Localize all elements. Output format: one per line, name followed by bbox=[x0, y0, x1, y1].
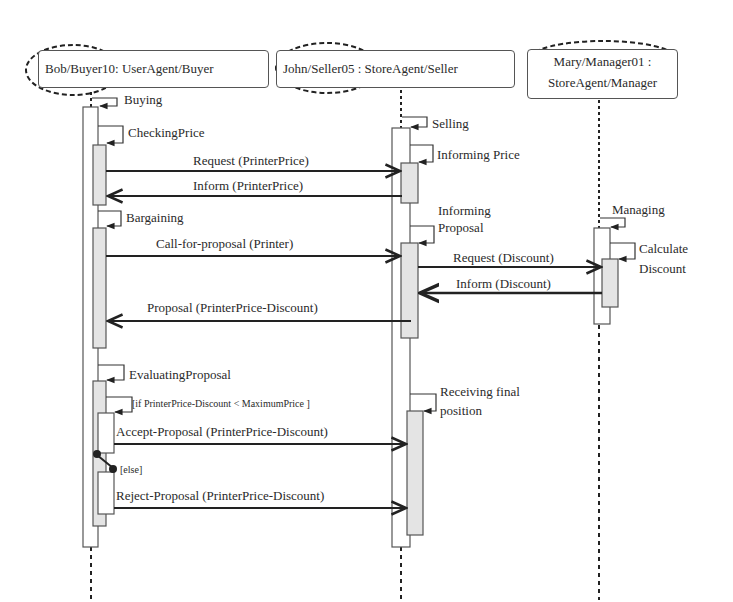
self-call-receiving-final bbox=[410, 394, 436, 411]
self-call-informing-proposal bbox=[410, 226, 434, 243]
self-call-informing-price bbox=[410, 145, 433, 162]
self-call-buying bbox=[92, 98, 117, 106]
label-receiving-final-2: position bbox=[440, 404, 482, 418]
participant-seller: John/Seller05 : StoreAgent/Seller bbox=[276, 50, 515, 88]
msg-label-proposal: Proposal (PrinterPrice-Discount) bbox=[147, 301, 318, 315]
participant-buyer-label: Bob/Buyer10: UserAgent/Buyer bbox=[45, 61, 214, 76]
activation-seller bbox=[392, 128, 423, 547]
msg-label-request-discount: Request (Discount) bbox=[453, 251, 554, 265]
msg-label-request-printerprice: Request (PrinterPrice) bbox=[193, 154, 309, 168]
label-evaluating-proposal: EvaluatingProposal bbox=[129, 368, 231, 382]
participant-seller-label: John/Seller05 : StoreAgent/Seller bbox=[283, 61, 458, 76]
msg-label-accept-proposal: Accept-Proposal (PrinterPrice-Discount) bbox=[116, 425, 328, 439]
label-buying: Buying bbox=[124, 93, 162, 107]
self-call-evaluating-proposal bbox=[98, 365, 124, 380]
self-call-checking-price bbox=[98, 126, 123, 143]
label-receiving-final-1: Receiving final bbox=[440, 385, 520, 399]
label-bargaining: Bargaining bbox=[126, 211, 184, 225]
self-call-if-guard bbox=[106, 397, 132, 412]
msg-label-call-for-proposal: Call-for-proposal (Printer) bbox=[156, 237, 293, 251]
label-if-guard: [if PrinterPrice-Discount < MaximumPrice… bbox=[132, 397, 310, 411]
participant-manager-classifier: StoreAgent/Manager bbox=[528, 75, 677, 90]
activation-buyer bbox=[83, 107, 114, 547]
label-informing-proposal-1: Informing bbox=[438, 204, 491, 218]
self-call-managing bbox=[600, 218, 625, 227]
label-calculate-discount-2: Discount bbox=[639, 262, 686, 276]
participant-buyer: Bob/Buyer10: UserAgent/Buyer bbox=[38, 50, 269, 88]
label-selling: Selling bbox=[432, 117, 469, 131]
label-managing: Managing bbox=[612, 203, 665, 217]
label-checking-price: CheckingPrice bbox=[128, 126, 205, 140]
msg-label-inform-discount: Inform (Discount) bbox=[456, 277, 551, 291]
label-informing-price: Informing Price bbox=[437, 148, 520, 162]
participant-manager: Mary/Manager01 : StoreAgent/Manager bbox=[527, 49, 678, 99]
self-call-calculate-discount bbox=[610, 243, 635, 259]
participant-manager-instance: Mary/Manager01 : bbox=[528, 54, 677, 69]
self-call-bargaining bbox=[98, 211, 121, 226]
label-calculate-discount-1: Calculate bbox=[639, 242, 688, 256]
msg-label-reject-proposal: Reject-Proposal (PrinterPrice-Discount) bbox=[116, 489, 324, 503]
label-informing-proposal-2: Proposal bbox=[438, 221, 484, 235]
label-else-guard: [else] bbox=[120, 463, 142, 477]
msg-label-inform-printerprice: Inform (PrinterPrice) bbox=[193, 179, 303, 193]
self-call-selling bbox=[402, 117, 427, 127]
